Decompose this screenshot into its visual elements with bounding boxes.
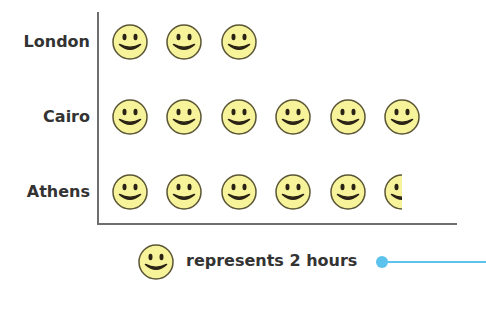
- smiley-icon: [165, 23, 203, 61]
- smiley-icon: [329, 98, 367, 136]
- smiley-icon: [220, 23, 258, 61]
- smiley-icon: [111, 173, 149, 211]
- smiley-icon: [274, 173, 312, 211]
- smiley-icon: [111, 98, 149, 136]
- smiley-icon: [111, 23, 149, 61]
- horizontal-axis: [97, 223, 457, 225]
- smiley-icon: [274, 98, 312, 136]
- legend-text: represents 2 hours: [186, 251, 357, 271]
- smiley-icon: [165, 98, 203, 136]
- row-label-london: London: [24, 32, 90, 52]
- smiley-icon: [329, 173, 367, 211]
- smiley-icon: [220, 98, 258, 136]
- row-label-cairo: Cairo: [43, 107, 90, 127]
- pointer-line: [386, 261, 486, 263]
- smiley-icon: [165, 173, 203, 211]
- smiley-icon: [383, 98, 421, 136]
- row-label-athens: Athens: [27, 182, 90, 202]
- smiley-icon: [220, 173, 258, 211]
- half-smiley-icon: [383, 173, 421, 211]
- vertical-axis: [97, 12, 99, 225]
- legend-smiley-icon: [137, 243, 175, 281]
